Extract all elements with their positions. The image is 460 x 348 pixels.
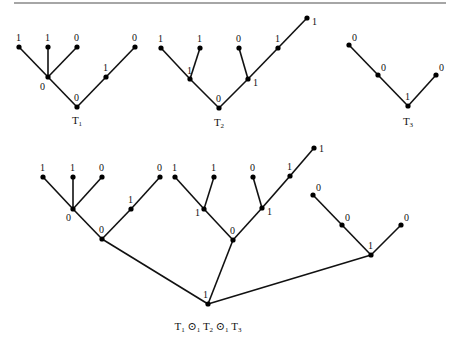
tree-node (40, 174, 45, 179)
tree-node (70, 174, 75, 179)
tree-node (433, 72, 438, 77)
tree-edge (204, 177, 214, 209)
tree-node (405, 103, 410, 108)
tree-node (245, 76, 250, 81)
tree-diagram: 0011100T101111011T21000T3100111000111101… (0, 0, 460, 348)
node-label: 0 (74, 32, 79, 43)
tree-node (398, 222, 403, 227)
tree-node (375, 72, 380, 77)
node-label: 0 (99, 162, 104, 173)
tree-edge (371, 225, 401, 255)
node-label: 1 (312, 16, 317, 27)
tree-node (70, 206, 75, 211)
tree-node (157, 174, 162, 179)
node-label: 0 (216, 93, 221, 104)
tree-node (368, 252, 373, 257)
node-label: 0 (74, 92, 79, 103)
node-label: 1 (197, 33, 202, 44)
tree-edge (161, 48, 190, 79)
tree-node (16, 44, 21, 49)
tree-node (197, 45, 202, 50)
node-label: 0 (230, 225, 235, 236)
trees-group: 0011100T101111011T21000T3100111000111101… (16, 15, 444, 334)
tree-edge (290, 148, 314, 176)
tree-node (346, 42, 351, 47)
tree-edge (253, 177, 262, 208)
tree-node (45, 44, 50, 49)
node-label: 1 (253, 77, 258, 88)
node-label: 0 (345, 212, 350, 223)
node-label: 1 (16, 32, 21, 43)
tree-node (132, 44, 137, 49)
tree-node (74, 104, 79, 109)
tree-node (250, 174, 255, 179)
tree-edge (190, 79, 219, 108)
tree-t2: 01111011T2 (158, 15, 317, 130)
node-label: 0 (316, 182, 321, 193)
node-label: 0 (40, 81, 45, 92)
tree-caption: T1 (72, 114, 83, 128)
tree-node (74, 44, 79, 49)
tree-node (311, 145, 316, 150)
tree-node (339, 222, 344, 227)
tree-edge (408, 75, 436, 106)
tree-node (259, 205, 264, 210)
tree-edge (204, 209, 233, 240)
node-label: 0 (250, 162, 255, 173)
tree-edge (233, 208, 262, 240)
tree-edge (73, 177, 102, 209)
tree-edge (313, 195, 342, 225)
node-label: 0 (99, 224, 104, 235)
node-label: 1 (195, 207, 200, 218)
node-label: 0 (439, 62, 444, 73)
tree-node (45, 74, 50, 79)
tree-edge (77, 77, 106, 107)
tree-caption: T1 ⊙1 T2 ⊙1 T3 (175, 320, 242, 334)
tree-edge (48, 47, 77, 77)
tree-edge (208, 240, 233, 304)
node-label: 0 (157, 162, 162, 173)
tree-node (236, 45, 241, 50)
tree-node (275, 45, 280, 50)
node-label: 0 (132, 32, 137, 43)
tree-node (216, 105, 221, 110)
tree-edge (378, 75, 408, 106)
node-label: 1 (187, 65, 192, 76)
tree-edge (239, 48, 248, 79)
node-label: 1 (368, 240, 373, 251)
tree-node (103, 74, 108, 79)
tree-node (99, 236, 104, 241)
node-label: 0 (236, 33, 241, 44)
node-label: 1 (319, 143, 324, 154)
tree-node (287, 173, 292, 178)
tree-node (304, 15, 309, 20)
tree-edge (48, 77, 77, 107)
tree-caption: T2 (214, 116, 225, 130)
tree-t1-o1-t2-o1-t3: 10011100011110111000T1 ⊙1 T2 ⊙1 T3 (40, 143, 409, 334)
tree-node (172, 174, 177, 179)
node-label: 1 (128, 194, 133, 205)
tree-edge (278, 18, 307, 48)
tree-t3: 1000T3 (346, 32, 444, 129)
node-label: 1 (275, 33, 280, 44)
tree-edge (73, 209, 102, 239)
node-label: 1 (103, 62, 108, 73)
tree-edge (208, 255, 371, 304)
node-label: 1 (287, 161, 292, 172)
tree-edge (175, 177, 204, 209)
node-label: 0 (404, 212, 409, 223)
tree-node (205, 301, 210, 306)
tree-node (158, 45, 163, 50)
tree-edge (262, 176, 290, 208)
tree-edge (102, 209, 131, 239)
tree-t1: 0011100T1 (16, 32, 138, 128)
node-label: 1 (172, 162, 177, 173)
node-label: 1 (211, 162, 216, 173)
node-label: 1 (203, 289, 208, 300)
tree-node (187, 76, 192, 81)
node-label: 1 (158, 33, 163, 44)
tree-node (211, 174, 216, 179)
node-label: 1 (45, 32, 50, 43)
node-label: 0 (352, 32, 357, 43)
tree-edge (342, 225, 371, 255)
